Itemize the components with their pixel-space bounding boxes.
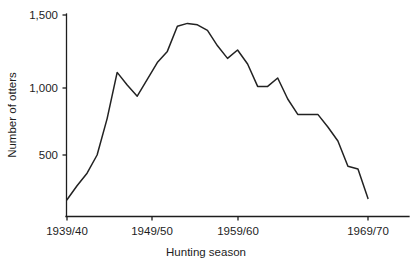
x-tick-label-1969: 1969/70 [347, 225, 389, 237]
y-tick-label-500: 500 [39, 149, 58, 161]
x-tick-label-1959: 1959/60 [217, 225, 259, 237]
x-axis-title: Hunting season [166, 246, 246, 258]
y-tick-label-1000: 1,000 [29, 82, 58, 94]
x-tick-label-1939: 1939/40 [46, 225, 88, 237]
line-chart-canvas: 1,500 1,000 500 1939/40 1949/50 1959/60 … [0, 0, 415, 267]
y-axis-title: Number of otters [6, 72, 18, 158]
x-tick-label-1949: 1949/50 [131, 225, 173, 237]
otters-line-series [67, 23, 368, 199]
y-tick-label-1500: 1,500 [29, 9, 58, 21]
chart-figure: 1,500 1,000 500 1939/40 1949/50 1959/60 … [0, 0, 415, 267]
